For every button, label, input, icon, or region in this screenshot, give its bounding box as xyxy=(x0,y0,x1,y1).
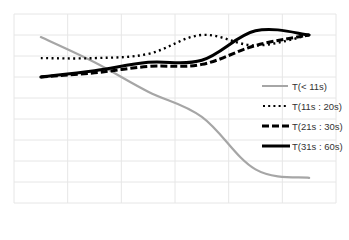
legend-label: T(< 11s) xyxy=(292,81,327,92)
dotted-line-icon xyxy=(262,101,290,111)
solid-gray-line-icon xyxy=(262,81,290,91)
legend-item-31-60s: T(31s : 60s) xyxy=(262,136,349,156)
legend: T(< 11s) T(11s : 20s) T(21s : 30s) T(31s… xyxy=(262,76,349,156)
legend-label: T(21s : 30s) xyxy=(292,121,343,132)
solid-black-line-icon xyxy=(262,141,290,151)
legend-label: T(11s : 20s) xyxy=(292,101,342,112)
legend-item-21-30s: T(21s : 30s) xyxy=(262,116,349,136)
legend-item-11-20s: T(11s : 20s) xyxy=(262,96,349,116)
dashed-line-icon xyxy=(262,121,290,131)
legend-label: T(31s : 60s) xyxy=(292,141,343,152)
legend-item-lt11s: T(< 11s) xyxy=(262,76,349,96)
